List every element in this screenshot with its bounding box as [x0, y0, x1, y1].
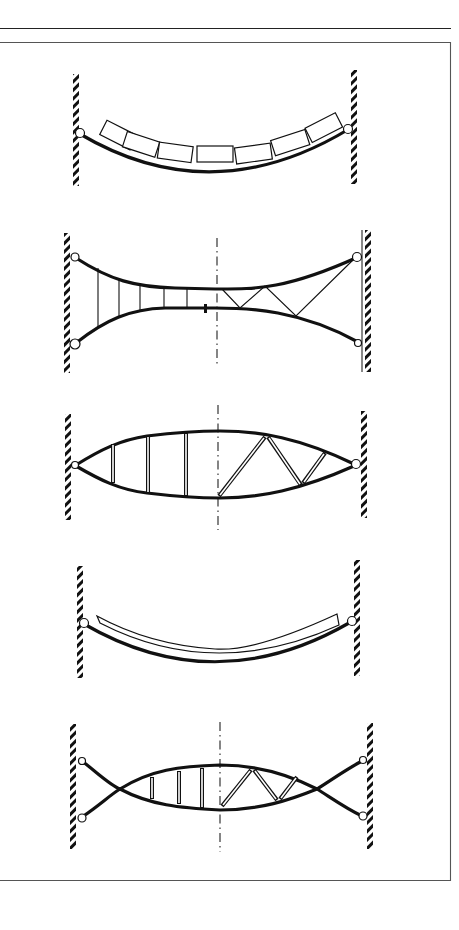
left-pin [76, 129, 85, 138]
panel-4-suspended-slab [77, 560, 360, 678]
block [197, 146, 233, 162]
left-wall [64, 233, 70, 373]
block [122, 132, 159, 158]
panel-3-convex-cable-truss [65, 405, 367, 530]
left-bottom-pin [70, 339, 80, 349]
diagram-canvas [0, 0, 459, 930]
right-bottom-pin [359, 812, 367, 820]
right-pin [348, 617, 357, 626]
right-wall [361, 411, 367, 518]
top-cable [82, 761, 362, 789]
right-pin [344, 125, 353, 134]
right-bottom-pin [355, 340, 362, 347]
left-top-pin [71, 253, 79, 261]
right-top-pin [353, 253, 362, 262]
strut-inner [255, 771, 276, 799]
block [305, 113, 343, 143]
block [234, 143, 272, 164]
panel-5-crossed-cable-truss [70, 722, 373, 852]
strut-inner [269, 438, 300, 484]
left-top-pin [79, 758, 86, 765]
right-pin [352, 460, 361, 469]
right-wall [367, 723, 373, 849]
left-wall [70, 724, 76, 849]
left-wall [65, 414, 71, 520]
left-pin [80, 619, 89, 628]
strut-inner [220, 438, 264, 495]
strut-inner [223, 771, 250, 805]
clamp [204, 304, 207, 313]
right-top-pin [360, 757, 367, 764]
blocks [100, 113, 343, 164]
left-pin [72, 462, 79, 469]
top-cable [76, 431, 354, 465]
panel-2-concave-cable-truss [64, 230, 371, 373]
left-bottom-pin [78, 814, 86, 822]
block [157, 142, 193, 163]
panel-1-catenary-blocks [73, 70, 357, 186]
right-wall [365, 230, 371, 372]
strut-inner [281, 778, 296, 798]
